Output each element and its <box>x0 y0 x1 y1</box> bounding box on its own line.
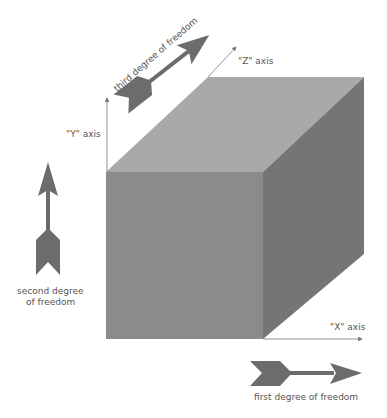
y-axis-label: "Y" axis <box>66 129 101 139</box>
first-degree-arrow-icon <box>250 361 362 386</box>
cube-diagram: "Y" axis "Z" axis "X" axis second degree… <box>0 0 387 418</box>
cube-front-face <box>106 172 263 339</box>
x-axis-label: "X" axis <box>330 322 366 332</box>
second-degree-label-line2: of freedom <box>26 297 75 307</box>
first-degree-label: first degree of freedom <box>254 392 358 402</box>
z-axis-label: "Z" axis <box>238 56 274 66</box>
z-axis-line <box>208 47 236 77</box>
second-degree-label-line1: second degree <box>17 286 84 296</box>
diagram-canvas: "Y" axis "Z" axis "X" axis second degree… <box>0 0 387 418</box>
second-degree-arrow-icon <box>36 162 60 275</box>
